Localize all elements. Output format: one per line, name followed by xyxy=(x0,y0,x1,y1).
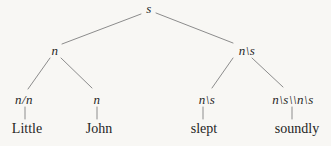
parse-tree-figure: s n n\s n/n n n\s n\s\\n\s Little John s… xyxy=(0,0,331,146)
edge-right-to-rightright xyxy=(252,58,283,87)
leaf-word-little: Little xyxy=(12,121,42,137)
tree-node-root: s xyxy=(146,2,152,16)
edge-left-to-leftleft xyxy=(28,58,50,89)
edge-left-to-leftright xyxy=(61,58,92,88)
tree-node-left: n xyxy=(52,44,59,58)
edge-right-to-rightleft xyxy=(212,58,233,88)
leaf-word-slept: slept xyxy=(191,121,217,137)
edge-root-to-right xyxy=(156,13,233,43)
tree-node-right-left: n\s xyxy=(199,93,216,107)
leaf-word-soundly: soundly xyxy=(275,121,319,137)
tree-node-left-right: n xyxy=(94,93,101,107)
leaf-word-john: John xyxy=(86,121,112,137)
tree-node-left-left: n/n xyxy=(15,93,33,107)
tree-node-right-right: n\s\\n\s xyxy=(272,93,314,107)
edge-root-to-left xyxy=(62,14,141,44)
tree-node-right: n\s xyxy=(239,44,256,58)
